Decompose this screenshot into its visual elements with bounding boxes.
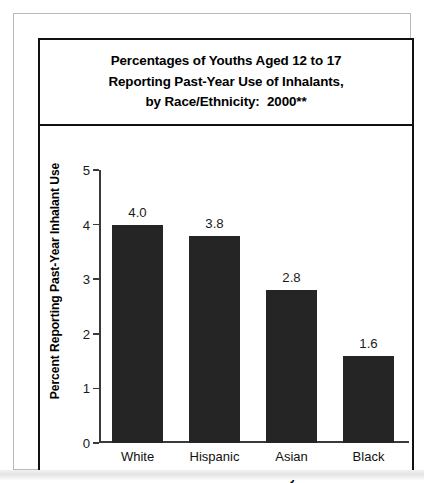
x-axis-category-label: Black xyxy=(329,449,408,464)
bar[interactable] xyxy=(112,225,163,443)
bar-value-label: 2.8 xyxy=(266,270,317,285)
bar[interactable] xyxy=(343,356,394,443)
y-axis-title: Percent Reporting Past-Year Inhalant Use xyxy=(46,136,64,426)
y-axis-tick-label: 2 xyxy=(83,326,90,341)
y-axis-tick-label: 5 xyxy=(83,163,90,178)
plot-block: Percent Reporting Past-Year Inhalant Use… xyxy=(40,126,412,474)
figure-title-block: Percentages of Youths Aged 12 to 17 Repo… xyxy=(40,40,412,126)
x-axis-category-label: Hispanic xyxy=(175,449,254,464)
chart-axes: 012345 4.0White3.8Hispanic2.8Asian1.6Bla… xyxy=(99,170,409,443)
bar-group: 4.0White3.8Hispanic2.8Asian1.6Black xyxy=(99,170,409,443)
y-axis-tick-label: 1 xyxy=(83,381,90,396)
figure-title-line-2: Reporting Past-Year Use of Inhalants, xyxy=(108,72,343,93)
bar-value-label: 1.6 xyxy=(343,336,394,351)
outer-page-border: Percentages of Youths Aged 12 to 17 Repo… xyxy=(13,13,411,470)
figure-title-line-1: Percentages of Youths Aged 12 to 17 xyxy=(111,51,342,72)
y-axis-tick-label: 4 xyxy=(83,217,90,232)
bar-value-label: 3.8 xyxy=(189,216,240,231)
bar-slot: 3.8Hispanic xyxy=(189,170,240,443)
bar-slot: 2.8Asian xyxy=(266,170,317,443)
x-axis-category-label: Asian xyxy=(252,449,331,464)
bar-slot: 1.6Black xyxy=(343,170,394,443)
bar[interactable] xyxy=(189,236,240,443)
bar-value-label: 4.0 xyxy=(112,205,163,220)
x-axis-category-label: White xyxy=(98,449,177,464)
y-axis-tick-label: 0 xyxy=(83,436,90,451)
figure-frame: Percentages of Youths Aged 12 to 17 Repo… xyxy=(38,38,414,476)
bar-slot: 4.0White xyxy=(112,170,163,443)
figure-title-line-3: by Race/Ethnicity: 2000** xyxy=(145,92,306,113)
scan-edge-artifact xyxy=(0,470,424,480)
bar[interactable] xyxy=(266,290,317,443)
y-axis-tick-label: 3 xyxy=(83,272,90,287)
